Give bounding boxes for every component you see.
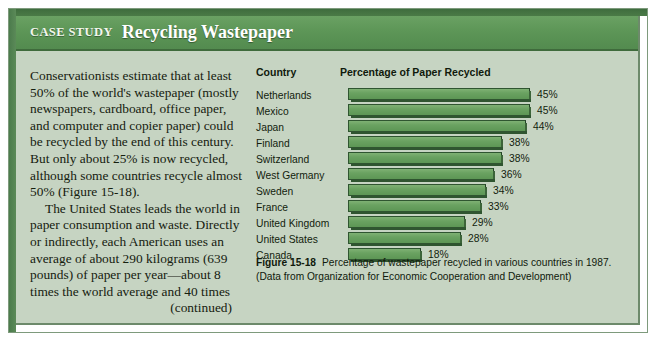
chart-bar-label: Switzerland: [256, 154, 309, 165]
chart-bar: [348, 136, 502, 151]
chart-bar-value: 29%: [472, 217, 493, 228]
chart-bar: [348, 120, 526, 135]
chart-bar-fill: [348, 88, 530, 100]
chart-bar-value: 38%: [509, 153, 530, 164]
chart-bar: [348, 232, 461, 247]
case-study-title: Recycling Wastepaper: [122, 22, 293, 43]
chart-bar-fill: [348, 216, 465, 228]
chart-bar-row: Sweden34%: [256, 184, 628, 200]
case-study-panel: CASE STUDY Recycling Wastepaper Conserva…: [16, 16, 640, 325]
chart-bar-value: 34%: [493, 185, 514, 196]
chart-bar-fill: [348, 168, 494, 180]
chart-bar: [348, 168, 494, 183]
case-study-kicker: CASE STUDY: [30, 25, 113, 40]
article-paragraph-2: The United States leads the world in pap…: [30, 201, 242, 301]
chart-bar-fill: [348, 200, 481, 212]
chart-bar-row: Mexico45%: [256, 104, 628, 120]
chart-bar-label: Japan: [256, 122, 284, 133]
chart-bar-fill: [348, 152, 502, 164]
chart-bar-value: 36%: [501, 169, 522, 180]
chart-bar-label: United Kingdom: [256, 218, 329, 229]
box-bevel-left: [8, 8, 16, 333]
article-paragraph-1: Conservationists estimate that at least …: [30, 68, 242, 201]
chart-bar-row: Finland38%: [256, 136, 628, 152]
chart-bar-value: 44%: [533, 121, 554, 132]
chart-bar-fill: [348, 232, 461, 244]
chart-bar-row: West Germany36%: [256, 168, 628, 184]
figure-number: Figure 15-18: [256, 257, 316, 268]
chart-column-headers: Country Percentage of Paper Recycled: [256, 66, 628, 83]
case-study-content: Conservationists estimate that at least …: [16, 51, 640, 325]
chart-bar-row: Japan44%: [256, 120, 628, 136]
recycling-bar-chart: Country Percentage of Paper Recycled Net…: [256, 66, 628, 264]
chart-bar-fill: [348, 136, 502, 148]
chart-header-percentage: Percentage of Paper Recycled: [340, 66, 491, 78]
chart-bar-row: Switzerland38%: [256, 152, 628, 168]
case-study-box: CASE STUDY Recycling Wastepaper Conserva…: [8, 8, 648, 333]
chart-bar: [348, 200, 481, 215]
chart-bar-fill: [348, 104, 530, 116]
chart-bar-row: United States28%: [256, 232, 628, 248]
chart-bar-label: Netherlands: [256, 90, 312, 101]
chart-bar-fill: [348, 184, 486, 196]
chart-bar-label: West Germany: [256, 170, 324, 181]
figure-caption: Figure 15-18Percentage of wastepaper rec…: [256, 256, 624, 283]
chart-bar-fill: [348, 120, 526, 132]
box-bevel-top: [8, 8, 648, 16]
chart-bar-value: 45%: [537, 105, 558, 116]
case-study-header: CASE STUDY Recycling Wastepaper: [16, 16, 640, 51]
chart-bar-label: Finland: [256, 138, 290, 149]
chart-bar-value: 33%: [488, 201, 509, 212]
chart-bar: [348, 104, 530, 119]
chart-bar-label: Mexico: [256, 106, 289, 117]
chart-bar-value: 28%: [468, 233, 489, 244]
chart-bar-row: France33%: [256, 200, 628, 216]
chart-bar: [348, 216, 465, 231]
chart-bar-label: United States: [256, 234, 318, 245]
article-column: Conservationists estimate that at least …: [30, 68, 242, 317]
chart-bar-label: France: [256, 202, 288, 213]
chart-bar-row: United Kingdom29%: [256, 216, 628, 232]
chart-bar: [348, 152, 502, 167]
chart-bar-value: 45%: [537, 89, 558, 100]
chart-bar: [348, 88, 530, 103]
chart-bar-value: 38%: [509, 137, 530, 148]
chart-bar-label: Sweden: [256, 186, 293, 197]
continued-marker: (continued): [30, 300, 242, 317]
chart-bar: [348, 184, 486, 199]
chart-header-country: Country: [256, 66, 296, 78]
chart-bar-row: Netherlands45%: [256, 88, 628, 104]
chart-bars: Netherlands45%Mexico45%Japan44%Finland38…: [256, 88, 628, 264]
